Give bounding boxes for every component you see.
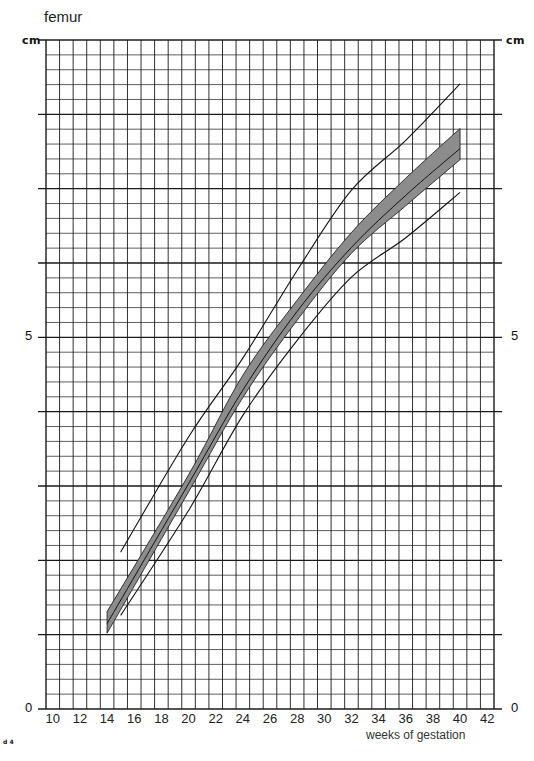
y-unit-left: cm — [22, 34, 41, 47]
page-mark: d 4 — [3, 738, 14, 745]
grid — [38, 40, 502, 709]
y-tick-left-0: 0 — [25, 700, 32, 715]
x-tick-label: 10 — [46, 711, 60, 726]
x-tick-label: 22 — [208, 711, 222, 726]
x-tick-label: 24 — [236, 711, 250, 726]
y-tick-right-0: 0 — [511, 700, 518, 715]
x-tick-label: 30 — [317, 711, 331, 726]
x-tick-label: 16 — [127, 711, 141, 726]
x-tick-label: 18 — [154, 711, 168, 726]
band-area — [107, 128, 460, 633]
percentile-band — [107, 128, 460, 633]
chart-title: femur — [44, 8, 82, 25]
y-tick-right-5: 5 — [511, 328, 518, 343]
x-tick-label: 12 — [73, 711, 87, 726]
x-tick-label: 14 — [100, 711, 114, 726]
median-line — [107, 149, 460, 624]
x-tick-label: 32 — [344, 711, 358, 726]
y-unit-right: cm — [506, 34, 525, 47]
x-axis-title: weeks of gestation — [366, 728, 465, 742]
x-tick-label: 36 — [399, 711, 413, 726]
x-tick-label: 20 — [181, 711, 195, 726]
x-tick-label: 42 — [480, 711, 494, 726]
y-tick-left-5: 5 — [25, 328, 32, 343]
x-tick-label: 28 — [290, 711, 304, 726]
femur-growth-chart: 1012141618202224262830323436384042 — [0, 0, 534, 761]
x-tick-label: 34 — [371, 711, 385, 726]
x-axis-ticks: 1012141618202224262830323436384042 — [46, 711, 495, 726]
x-tick-label: 38 — [426, 711, 440, 726]
x-tick-label: 40 — [453, 711, 467, 726]
x-tick-label: 26 — [263, 711, 277, 726]
